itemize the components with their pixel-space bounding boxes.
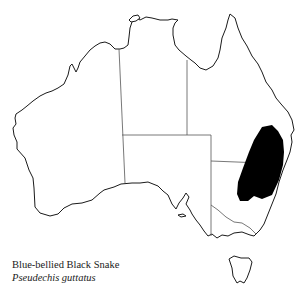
australia-coastline [13, 14, 294, 238]
map-caption: Blue-bellied Black Snake Pseudechis gutt… [12, 258, 119, 284]
common-name: Blue-bellied Black Snake [12, 258, 119, 271]
tasmania [229, 256, 252, 283]
scientific-name: Pseudechis guttatus [12, 271, 119, 284]
australia-distribution-map [0, 0, 304, 298]
kangaroo-island [178, 214, 186, 217]
